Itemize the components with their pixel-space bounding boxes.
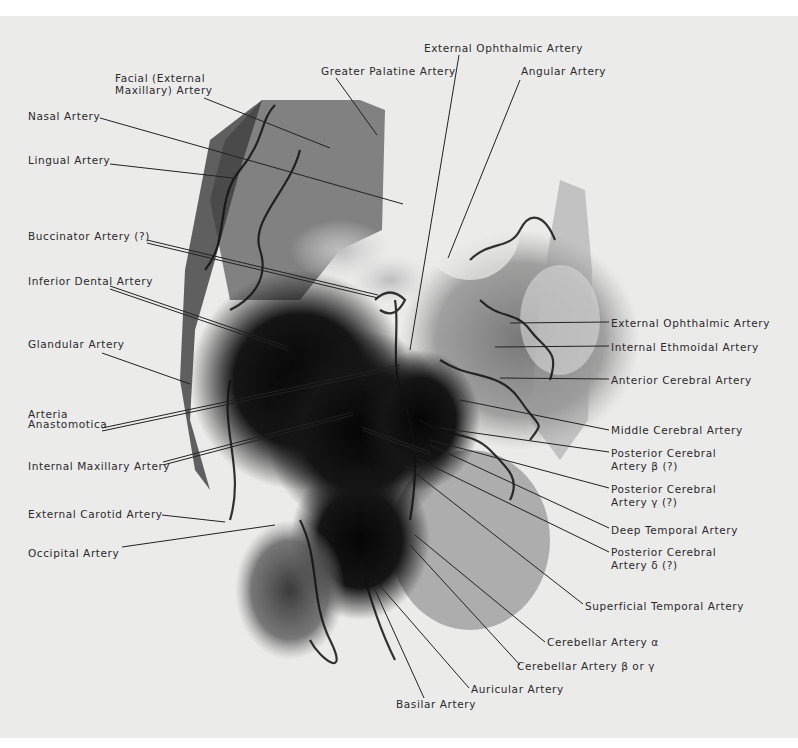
label-cerebellar-artery-alpha: Cerebellar Artery α bbox=[547, 636, 659, 648]
label-cerebellar-artery-beta-gamma: Cerebellar Artery β or γ bbox=[517, 660, 655, 672]
label-facial-artery: Facial (External Maxillary) Artery bbox=[115, 72, 213, 96]
label-buccinator-artery: Buccinator Artery (?) bbox=[28, 230, 150, 242]
label-glandular-artery: Glandular Artery bbox=[28, 338, 125, 350]
label-auricular-artery: Auricular Artery bbox=[471, 683, 564, 695]
radiograph bbox=[180, 100, 640, 663]
label-lingual-artery: Lingual Artery bbox=[28, 154, 110, 166]
label-internal-maxillary-artery: Internal Maxillary Artery bbox=[28, 460, 170, 472]
label-greater-palatine-artery: Greater Palatine Artery bbox=[321, 65, 456, 77]
label-anterior-cerebral-artery: Anterior Cerebral Artery bbox=[611, 374, 752, 386]
label-external-carotid-artery: External Carotid Artery bbox=[28, 508, 163, 520]
label-basilar-artery: Basilar Artery bbox=[396, 698, 476, 710]
label-internal-ethmoidal-artery: Internal Ethmoidal Artery bbox=[611, 341, 759, 353]
label-inferior-dental-artery: Inferior Dental Artery bbox=[28, 275, 153, 287]
label-occipital-artery: Occipital Artery bbox=[28, 547, 119, 559]
label-posterior-cerebral-artery-beta: Posterior Cerebral Artery β (?) bbox=[611, 447, 716, 473]
label-middle-cerebral-artery: Middle Cerebral Artery bbox=[611, 424, 743, 436]
label-external-ophthalmic-artery-right: External Ophthalmic Artery bbox=[611, 317, 770, 329]
label-posterior-cerebral-artery-delta: Posterior Cerebral Artery δ (?) bbox=[611, 546, 716, 572]
label-deep-temporal-artery: Deep Temporal Artery bbox=[611, 524, 738, 536]
label-arteria-anastomotica: Arteria Anastomotica bbox=[28, 409, 107, 429]
label-external-ophthalmic-artery-top: External Ophthalmic Artery bbox=[424, 42, 583, 54]
label-nasal-artery: Nasal Artery bbox=[28, 110, 100, 122]
label-posterior-cerebral-artery-gamma: Posterior Cerebral Artery γ (?) bbox=[611, 483, 716, 509]
label-superficial-temporal-artery: Superficial Temporal Artery bbox=[585, 600, 744, 612]
label-angular-artery: Angular Artery bbox=[521, 65, 606, 77]
